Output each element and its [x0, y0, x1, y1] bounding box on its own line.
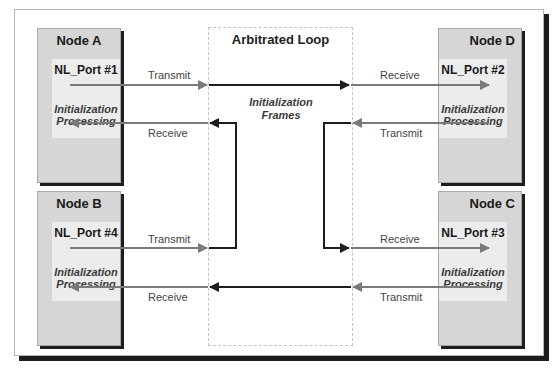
node-b-receive-label: Receive [148, 291, 188, 303]
node-d-receive-label: Receive [380, 69, 420, 81]
node-c-receive-label: Receive [380, 233, 420, 245]
node-d-transmit-label: Transmit [380, 127, 422, 139]
node-a-receive-label: Receive [148, 127, 188, 139]
node-c-transmit-label: Transmit [380, 291, 422, 303]
node-b-transmit-arrow [70, 123, 236, 248]
node-b-transmit-label: Transmit [148, 233, 190, 245]
node-a-transmit-label: Transmit [148, 69, 190, 81]
link-arrows [0, 0, 553, 369]
node-d-transmit-arrow [324, 123, 489, 248]
